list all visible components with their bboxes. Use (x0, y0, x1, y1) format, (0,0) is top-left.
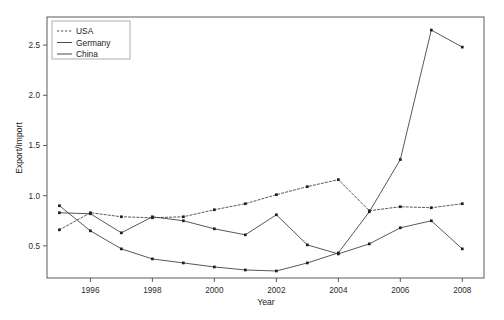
data-point-marker (120, 231, 123, 234)
data-point-marker (213, 208, 216, 211)
y-tick-label: 1.5 (29, 141, 41, 150)
data-point-marker (275, 213, 278, 216)
data-point-marker (89, 229, 92, 232)
data-point-marker (182, 219, 185, 222)
x-tick-label: 1996 (81, 286, 100, 295)
data-point-marker (151, 215, 154, 218)
data-point-marker (58, 228, 61, 231)
data-point-marker (151, 258, 154, 261)
data-point-marker (399, 205, 402, 208)
x-tick-label: 2004 (329, 286, 348, 295)
data-point-marker (58, 211, 61, 214)
data-point-marker (306, 244, 309, 247)
y-tick-label: 2.0 (29, 91, 41, 100)
legend-label-usa: USA (76, 26, 94, 36)
data-point-marker (120, 215, 123, 218)
data-point-marker (120, 248, 123, 251)
data-point-marker (244, 202, 247, 205)
legend-label-germany: Germany (76, 38, 111, 48)
x-tick-label: 2000 (205, 286, 224, 295)
data-point-marker (430, 219, 433, 222)
x-tick-label: 2006 (391, 286, 410, 295)
chart-background (0, 0, 504, 320)
line-chart: 0.51.01.52.02.5 199619982000200220042006… (0, 0, 504, 320)
data-point-marker (461, 202, 464, 205)
data-point-marker (89, 212, 92, 215)
y-tick-label: 2.5 (29, 41, 41, 50)
data-point-marker (182, 215, 185, 218)
data-point-marker (368, 210, 371, 213)
data-point-marker (337, 252, 340, 255)
data-point-marker (182, 262, 185, 265)
data-point-marker (244, 233, 247, 236)
legend-label-china: China (76, 49, 98, 59)
y-tick-label: 1.0 (29, 192, 41, 201)
data-point-marker (306, 185, 309, 188)
data-point-marker (58, 204, 61, 207)
data-point-marker (244, 269, 247, 272)
data-point-marker (399, 158, 402, 161)
data-point-marker (399, 226, 402, 229)
data-point-marker (213, 266, 216, 269)
data-point-marker (213, 227, 216, 230)
data-point-marker (275, 193, 278, 196)
x-axis-title: Year (257, 297, 275, 307)
x-tick-label: 2002 (267, 286, 286, 295)
y-axis-title: Export/Import (14, 122, 24, 174)
x-tick-label: 2008 (453, 286, 472, 295)
data-point-marker (337, 178, 340, 181)
data-point-marker (275, 270, 278, 273)
data-point-marker (430, 206, 433, 209)
chart-root: 0.51.01.52.02.5 199619982000200220042006… (0, 0, 504, 320)
data-point-marker (430, 29, 433, 32)
y-tick-label: 0.5 (29, 242, 41, 251)
x-tick-label: 1998 (143, 286, 162, 295)
data-point-marker (306, 262, 309, 265)
data-point-marker (368, 243, 371, 246)
data-point-marker (461, 46, 464, 49)
data-point-marker (461, 248, 464, 251)
